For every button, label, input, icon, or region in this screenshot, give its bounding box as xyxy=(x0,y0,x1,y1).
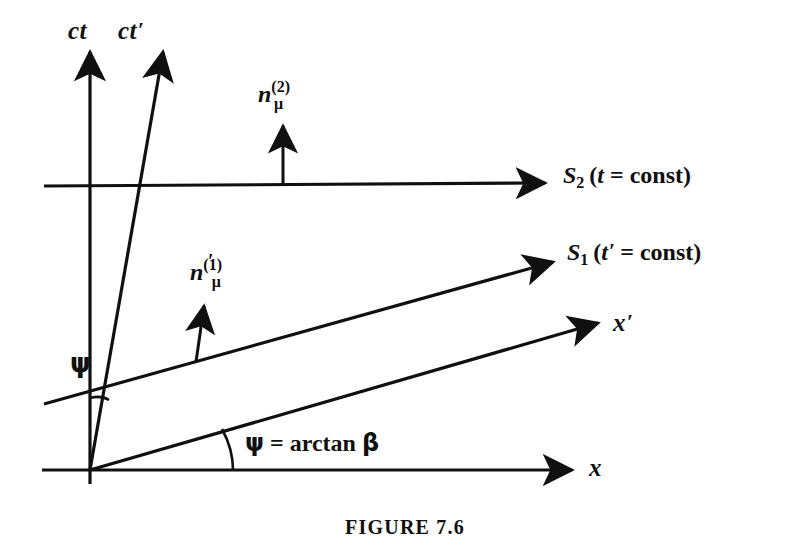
n1-subscript: μ xyxy=(212,273,221,290)
angle-eq-psi: ψ xyxy=(245,429,264,457)
s1-variable-prime: ′ xyxy=(609,238,615,263)
n2-subscript: μ xyxy=(274,95,283,112)
n1-normal-arrow xyxy=(196,306,204,362)
angle-eq-beta: β xyxy=(362,429,379,457)
angle-eq-equals: = xyxy=(270,430,284,456)
psi-arc-space-axes xyxy=(222,429,233,470)
s2-variable: t xyxy=(597,162,604,188)
n1-prime: ′ xyxy=(208,250,214,272)
s1-close-paren: ) xyxy=(693,239,701,265)
s2-equals: = xyxy=(610,162,624,188)
s2-open-paren: ( xyxy=(584,162,597,188)
n1-base: n xyxy=(190,259,203,285)
x-prime-axis-label-prime: ′ xyxy=(627,309,634,334)
x-axis-label-text: x xyxy=(589,454,602,481)
s1-value: const xyxy=(640,239,693,265)
ct-axis-label-text: ct xyxy=(68,17,87,44)
ct-prime-axis-label-prime: ′ xyxy=(138,17,145,42)
s2-close-paren: ) xyxy=(683,162,691,188)
s1-symbol: S xyxy=(567,239,580,265)
s2-surface-line xyxy=(44,183,545,186)
s1-variable: t xyxy=(601,239,608,265)
s1-open-paren: ( xyxy=(588,239,601,265)
s2-symbol: S xyxy=(563,162,576,188)
s2-value: const xyxy=(630,162,683,188)
n1-normal-label: n(1)′μ xyxy=(190,260,237,284)
n2-base: n xyxy=(258,81,271,107)
s2-surface-label: S2(t = const) xyxy=(563,163,691,191)
ct-prime-axis-line xyxy=(90,52,163,470)
psi-arc-time-axes xyxy=(90,397,109,400)
figure-caption: FIGURE 7.6 xyxy=(0,516,810,539)
s1-equals: = xyxy=(620,239,634,265)
ct-axis-label: ct xyxy=(68,18,87,43)
spacetime-diagram xyxy=(0,0,810,560)
x-prime-axis-label-text: x xyxy=(613,309,626,336)
psi-angle-equation: ψ = arctan β xyxy=(245,431,379,455)
ct-prime-axis-label-text: ct xyxy=(118,17,137,44)
figure-7-6: ct ct′ x x′ S2(t = const) S1(t′ = const)… xyxy=(0,0,810,560)
n2-superscript: (2) xyxy=(271,78,290,95)
s1-surface-line xyxy=(44,262,553,404)
s1-surface-label: S1(t′ = const) xyxy=(567,240,701,268)
x-axis-label: x xyxy=(589,455,602,480)
psi-angle-symbol: ψ xyxy=(70,350,91,376)
ct-prime-axis-label: ct′ xyxy=(118,18,144,43)
x-prime-axis-label: x′ xyxy=(613,310,633,335)
n2-normal-label: n(2)μ xyxy=(258,82,299,106)
angle-eq-arctan: arctan xyxy=(290,430,356,456)
